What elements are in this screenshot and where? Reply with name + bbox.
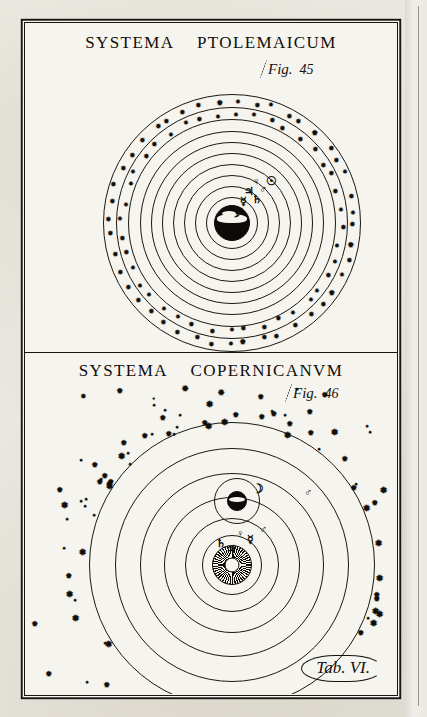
star-icon: ✹	[330, 427, 339, 438]
jupiter-icon: ♃	[226, 544, 236, 555]
star-icon: ✹	[307, 429, 315, 438]
venus-icon: ♀	[236, 528, 244, 539]
panel-ptolemaic: SYSTEMA PTOLEMAICUM Fig.45 ✹✹✹✹✹✹✹✹✹✹✹✹✹…	[25, 23, 397, 352]
star-icon: ✹	[105, 215, 112, 223]
star-icon: ✹	[92, 513, 96, 518]
star-icon: ✹	[258, 412, 266, 421]
star-icon: ✹	[375, 572, 384, 583]
star-icon: ✹	[172, 433, 176, 438]
star-icon: ✹	[60, 499, 69, 510]
star-icon: ✹	[297, 136, 304, 144]
star-icon: ✹	[233, 112, 239, 119]
star-icon: ✹	[146, 292, 152, 299]
star-icon: ✹	[179, 109, 186, 117]
star-icon: ✹	[217, 388, 225, 398]
star-icon: ✹	[308, 297, 314, 304]
star-icon: ✹	[373, 595, 381, 604]
luna-icon: ☽	[230, 207, 241, 219]
star-icon: ✹	[143, 154, 150, 162]
star-icon: ✹	[175, 313, 181, 320]
star-icon: ✹	[292, 322, 299, 330]
star-icon: ✹	[347, 240, 355, 249]
star-icon: ✹	[65, 518, 69, 523]
sol-icon: ☉	[266, 175, 277, 187]
star-icon: ✹	[141, 432, 149, 441]
star-icon: ✹	[62, 547, 66, 552]
star-icon: ✹	[181, 384, 189, 394]
star-icon: ✹	[204, 421, 213, 432]
star-icon: ✹	[129, 152, 136, 160]
star-icon: ✹	[80, 393, 87, 401]
star-icon: ✹	[79, 500, 83, 505]
star-icon: ✹	[151, 141, 158, 149]
star-icon: ✹	[188, 321, 195, 329]
star-icon: ✹	[215, 113, 221, 120]
star-icon: ✹	[369, 617, 378, 628]
star-icon: ✹	[229, 326, 235, 333]
star-icon: ✹	[295, 118, 302, 126]
star-icon: ✹	[269, 117, 276, 125]
star-icon: ✹	[325, 272, 332, 280]
star-icon: ✹	[135, 297, 142, 305]
star-icon: ✹	[328, 288, 336, 297]
star-icon: ✹	[283, 414, 287, 419]
star-icon: ✹	[368, 431, 372, 436]
star-icon: ✹	[117, 216, 123, 223]
star-icon: ✹	[71, 613, 80, 624]
star-icon: ✹	[139, 137, 146, 145]
star-icon: ✹	[163, 118, 170, 126]
star-icon: ✹	[31, 620, 39, 629]
star-icon: ✹	[119, 235, 126, 243]
tab-number-label: Tab. VI.	[301, 655, 383, 682]
adjacent-page-sliver	[405, 0, 427, 717]
star-icon: ✹	[178, 413, 182, 418]
star-icon: ✹	[91, 461, 99, 470]
star-icon: ✹	[160, 319, 167, 327]
star-icon: ✹	[317, 448, 321, 453]
star-icon: ✹	[155, 123, 162, 131]
fig-46-swash	[285, 383, 293, 402]
star-icon: ✹	[332, 188, 339, 196]
star-icon: ✹	[261, 334, 268, 342]
star-icon: ✹	[159, 414, 167, 423]
star-icon: ✹	[120, 439, 128, 448]
star-icon: ✹	[56, 486, 64, 495]
star-icon: ✹	[257, 393, 265, 402]
star-icon: ✹	[110, 181, 117, 189]
star-icon: ✹	[195, 101, 202, 109]
star-icon: ✹	[320, 162, 327, 170]
star-icon: ✹	[349, 221, 356, 229]
star-icon: ✹	[45, 670, 53, 679]
star-icon: ✹	[168, 132, 174, 139]
star-icon: ✹	[320, 302, 327, 310]
star-icon: ✹	[290, 310, 296, 317]
star-icon: ✹	[174, 329, 181, 337]
star-icon: ✹	[123, 249, 130, 257]
star-icon: ✹	[350, 209, 356, 216]
star-icon: ✹	[286, 113, 293, 121]
venus-icon: ♀	[252, 176, 260, 187]
star-icon: ✹	[101, 472, 109, 481]
title-copernican-word2: COPERNICANVM	[190, 361, 343, 380]
title-ptolemaic: SYSTEMA PTOLEMAICUM	[25, 33, 397, 53]
star-icon: ✹	[73, 599, 77, 604]
earth-landmass-copernican	[229, 497, 245, 502]
fig-45-swash	[260, 59, 268, 78]
saturn-icon: ♄	[216, 538, 226, 549]
star-icon: ✹	[220, 416, 229, 427]
star-icon: ✹	[235, 99, 241, 106]
star-icon: ✹	[79, 459, 83, 464]
star-icon: ✹	[342, 169, 348, 176]
star-icon: ✹	[332, 258, 338, 265]
star-icon: ✹	[348, 192, 355, 200]
star-icon: ✹	[312, 146, 319, 154]
title-copernican: SYSTEMA COPERNICANVM	[25, 361, 397, 381]
star-icon: ✹	[275, 315, 282, 323]
star-icon: ✹	[334, 243, 340, 250]
star-icon: ✹	[341, 455, 349, 464]
star-icon: ✹	[152, 404, 156, 409]
star-icon: ✹	[128, 181, 134, 188]
star-icon: ✹	[107, 230, 114, 238]
mercury-icon: ☿	[240, 196, 247, 207]
mercury-icon: ☿	[247, 534, 254, 545]
